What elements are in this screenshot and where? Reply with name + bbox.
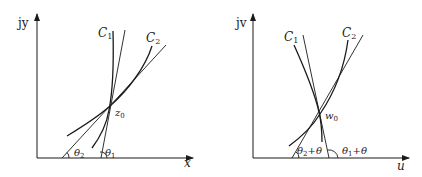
curve-c1-label: C1: [284, 30, 298, 45]
tangent-c2: [62, 45, 166, 158]
right-panel-w-plane: jv u C1 C2 w0 θ2+θ θ1+θ: [234, 14, 409, 173]
point-z0-label: z0: [114, 107, 125, 120]
u-axis-label: u: [397, 159, 405, 173]
curve-c2: [67, 46, 152, 136]
angle-theta2-plus-theta-label: θ2+θ: [297, 145, 322, 158]
left-panel-z-plane: jy x C1 C2 z0 θ2 θ1: [16, 14, 193, 170]
curve-c2-label: C2: [146, 31, 160, 46]
tangent-c2: [292, 35, 363, 158]
curve-c2: [289, 40, 348, 146]
curve-c2-label: C2: [342, 26, 356, 41]
conformal-mapping-diagram: jy x C1 C2 z0 θ2 θ1 jv u C1 C2 w0 θ2+θ θ…: [0, 0, 422, 177]
tangent-c1: [303, 35, 329, 158]
angle-arc-theta2: [67, 153, 69, 159]
v-axis-label: jv: [234, 16, 247, 30]
y-axis-label: jy: [16, 16, 29, 30]
point-w0-label: w0: [325, 110, 338, 123]
x-axis-label: x: [184, 156, 191, 170]
curve-c1-label: C1: [98, 26, 112, 41]
curve-c1: [92, 31, 113, 148]
angle-theta1-plus-theta-label: θ1+θ: [342, 145, 367, 158]
